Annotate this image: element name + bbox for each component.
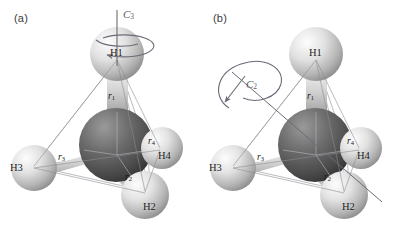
atom-label-h1: H1 [309,47,322,58]
bond-label-r4: r4 [148,136,155,146]
hydrogen-atom-h4 [340,127,382,169]
molecular-symmetry-figure: (a) [0,0,397,226]
bond-label-r3: r3 [58,152,65,162]
c3-subscript: 3 [130,12,134,21]
atom-label-h4: H4 [158,150,171,161]
panel-a-molecule-graphic [0,0,198,226]
panel-a: (a) [0,0,198,226]
atom-label-h4: H4 [357,150,370,161]
bond-label-r2: r2 [125,172,132,182]
bond-label-r3: r3 [257,152,264,162]
bond-label-r1: r1 [307,91,314,101]
c2-rotation-arrow [225,76,245,102]
c2-axis-label: C2 [246,78,257,91]
atom-label-h2: H2 [342,201,355,212]
panel-b-molecule-graphic [199,0,397,226]
hydrogen-atom-h4 [141,127,183,169]
bond-label-r2: r2 [324,172,331,182]
atom-label-h2: H2 [143,201,156,212]
bond-label-r1: r1 [108,91,115,101]
c3-axis-label: C3 [123,8,134,21]
atom-label-h3: H3 [10,162,23,173]
c2-subscript: 2 [253,82,257,91]
atom-label-h1: H1 [110,47,123,58]
atom-label-h3: H3 [209,162,222,173]
bond-label-r4: r4 [347,136,354,146]
panel-b: (b) [199,0,397,226]
